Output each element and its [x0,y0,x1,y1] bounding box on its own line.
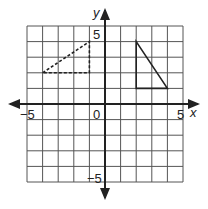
tick-label-x-neg5: −5 [20,107,35,122]
tick-label-x-5: 5 [177,107,184,122]
tick-label-y-5: 5 [93,27,100,42]
tick-label-origin: 0 [93,107,100,122]
x-axis-label: x [189,105,197,120]
axes [8,8,200,200]
y-axis-up-arrow-icon [100,8,110,20]
y-axis-down-arrow-icon [100,188,110,200]
y-axis-label: y [92,5,101,20]
x-axis-left-arrow-icon [8,99,20,109]
tick-label-y-neg5: −5 [87,171,102,186]
coordinate-grid: y x 5 −5 0 5 −5 [0,0,208,209]
